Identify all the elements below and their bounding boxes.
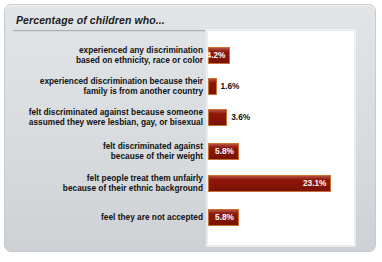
category-label: felt discriminated against because of th… — [103, 141, 203, 162]
bar-value-label: 23.1% — [303, 178, 331, 188]
bar-container: 5.8% — [208, 143, 239, 160]
category-label: felt discriminated against because someo… — [29, 107, 203, 128]
chart-figure: Percentage of children who... experience… — [0, 0, 382, 262]
bar[interactable]: 4.2% — [208, 47, 230, 64]
page-title: Percentage of children who... — [16, 14, 165, 26]
bar[interactable] — [208, 109, 227, 126]
bar-row: felt discriminated against because of th… — [0, 134, 382, 168]
category-label: felt people treat them unfairly because … — [63, 173, 203, 194]
bar[interactable]: 5.8% — [208, 209, 239, 226]
bar-value-label: 3.6% — [231, 112, 250, 122]
bar-value-label: 5.8% — [215, 146, 238, 156]
bar-row: felt discriminated against because someo… — [0, 100, 382, 134]
bar-row: experienced any discrimination based on … — [0, 38, 382, 72]
bar-value-label: 4.2% — [207, 50, 230, 60]
bar-container: 5.8% — [208, 209, 239, 226]
bar-rows: experienced any discrimination based on … — [0, 30, 382, 246]
bar[interactable]: 23.1% — [208, 175, 331, 192]
category-label: experienced any discrimination based on … — [76, 45, 203, 66]
bar-value-label: 5.8% — [215, 212, 238, 222]
bar-container: 4.2% — [208, 47, 230, 64]
bar-row: felt people treat them unfairly because … — [0, 166, 382, 200]
bar-row: feel they are not accepted5.8% — [0, 200, 382, 234]
category-label: experienced discrimination because their… — [40, 76, 203, 97]
bar-container: 23.1% — [208, 175, 331, 192]
bar-row: experienced discrimination because their… — [0, 69, 382, 103]
category-label: feel they are not accepted — [101, 212, 203, 223]
bar-container: 3.6% — [208, 109, 250, 126]
bar-value-label: 1.6% — [221, 81, 240, 91]
bar-container: 1.6% — [208, 78, 239, 95]
bar[interactable] — [208, 78, 217, 95]
bar[interactable]: 5.8% — [208, 143, 239, 160]
